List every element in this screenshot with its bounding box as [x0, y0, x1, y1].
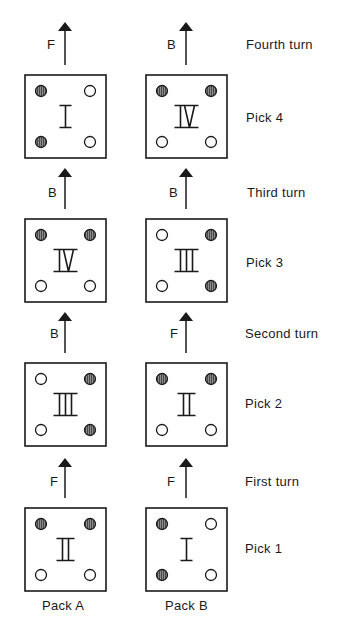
pick-label-1: Pick 1 — [245, 541, 282, 557]
filled-hole-icon — [85, 519, 96, 530]
up-arrow-head-icon — [179, 312, 193, 321]
empty-hole-icon — [36, 425, 47, 436]
empty-hole-icon — [36, 374, 47, 385]
direction-letter-pick3-pack-a: B — [48, 185, 57, 201]
filled-hole-icon — [206, 230, 217, 241]
filled-hole-icon — [36, 230, 47, 241]
empty-hole-icon — [85, 281, 96, 292]
filled-hole-icon — [157, 570, 168, 581]
up-arrow-head-icon — [58, 22, 72, 31]
empty-hole-icon — [157, 137, 168, 148]
up-arrow-head-icon — [179, 458, 193, 467]
direction-letter-pick3-pack-b: B — [169, 185, 178, 201]
direction-letter-pick1-pack-b: F — [167, 474, 175, 490]
turn-label-fourth: Fourth turn — [246, 37, 313, 53]
pick-label-2: Pick 2 — [245, 396, 282, 412]
pack-a-label: Pack A — [42, 598, 84, 614]
filled-hole-icon — [157, 374, 168, 385]
up-arrow-head-icon — [179, 22, 193, 31]
filled-hole-icon — [85, 374, 96, 385]
empty-hole-icon — [157, 230, 168, 241]
empty-hole-icon — [206, 137, 217, 148]
up-arrow-head-icon — [58, 168, 72, 177]
filled-hole-icon — [85, 425, 96, 436]
empty-hole-icon — [36, 281, 47, 292]
empty-hole-icon — [36, 570, 47, 581]
up-arrow-head-icon — [58, 458, 72, 467]
pick-label-3: Pick 3 — [246, 255, 283, 271]
empty-hole-icon — [85, 137, 96, 148]
tablet-weaving-turn-diagram: Fourth turn Pick 4 Third turn Pick 3 Sec… — [0, 0, 346, 632]
filled-hole-icon — [36, 86, 47, 97]
turn-label-third: Third turn — [247, 185, 306, 201]
direction-letter-pick1-pack-a: F — [50, 474, 58, 490]
direction-letter-pick4-pack-a: F — [47, 37, 55, 53]
empty-hole-icon — [157, 281, 168, 292]
pick-label-4: Pick 4 — [246, 110, 283, 126]
turn-label-first: First turn — [245, 474, 299, 490]
empty-hole-icon — [206, 519, 217, 530]
filled-hole-icon — [157, 519, 168, 530]
up-arrow-head-icon — [179, 168, 193, 177]
direction-letter-pick4-pack-b: B — [167, 37, 176, 53]
empty-hole-icon — [85, 86, 96, 97]
direction-letter-pick2-pack-a: B — [50, 326, 59, 342]
filled-hole-icon — [206, 374, 217, 385]
filled-hole-icon — [206, 86, 217, 97]
turn-label-second: Second turn — [245, 326, 318, 342]
empty-hole-icon — [157, 425, 168, 436]
filled-hole-icon — [85, 230, 96, 241]
empty-hole-icon — [85, 570, 96, 581]
filled-hole-icon — [206, 281, 217, 292]
up-arrow-head-icon — [58, 312, 72, 321]
pack-b-label: Pack B — [165, 598, 208, 614]
diagram-canvas — [0, 0, 346, 632]
empty-hole-icon — [206, 570, 217, 581]
filled-hole-icon — [36, 137, 47, 148]
filled-hole-icon — [36, 519, 47, 530]
direction-letter-pick2-pack-b: F — [170, 326, 178, 342]
filled-hole-icon — [157, 86, 168, 97]
empty-hole-icon — [206, 425, 217, 436]
